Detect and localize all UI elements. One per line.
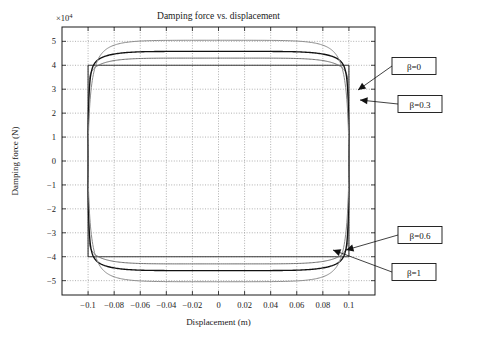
y-tick-label: 4 <box>52 60 57 70</box>
chart-figure: −0.1−0.08−0.06−0.04−0.0200.020.040.060.0… <box>0 0 485 357</box>
x-tick-label: 0.02 <box>237 300 252 310</box>
chart-title: Damping force vs. displacement <box>157 11 280 21</box>
annotation-label: β=0.3 <box>410 100 431 110</box>
annotation-label: β=1 <box>407 268 421 278</box>
y-tick-label: 0 <box>52 156 56 166</box>
x-tick-label: −0.06 <box>130 300 150 310</box>
y-tick-label: −5 <box>47 276 56 286</box>
x-tick-label: 0.04 <box>263 300 279 310</box>
x-tick-label: 0.1 <box>344 300 355 310</box>
annotation-label: β=0.6 <box>410 231 431 241</box>
y-tick-label: −4 <box>47 252 57 262</box>
x-tick-label: −0.1 <box>80 300 95 310</box>
y-tick-label: −2 <box>47 204 56 214</box>
y-tick-label: 3 <box>52 84 56 94</box>
x-tick-label: 0 <box>216 300 220 310</box>
x-tick-label: −0.04 <box>156 300 176 310</box>
y-axis-label: Damping force (N) <box>10 127 20 196</box>
y-axis-exponent: ×104 <box>56 12 73 23</box>
x-tick-label: 0.06 <box>289 300 304 310</box>
y-tick-label: 1 <box>52 132 56 142</box>
y-tick-label: 2 <box>52 108 56 118</box>
x-tick-label: 0.08 <box>315 300 330 310</box>
annotation-label: β=0 <box>407 62 422 72</box>
y-tick-label: 5 <box>52 36 56 46</box>
x-tick-label: −0.02 <box>183 300 203 310</box>
y-tick-label: −3 <box>47 228 56 238</box>
x-axis-label: Displacement (m) <box>186 317 251 327</box>
damping-force-vs-displacement-chart: −0.1−0.08−0.06−0.04−0.0200.020.040.060.0… <box>0 0 485 357</box>
x-tick-label: −0.08 <box>104 300 124 310</box>
y-tick-label: −1 <box>47 180 56 190</box>
